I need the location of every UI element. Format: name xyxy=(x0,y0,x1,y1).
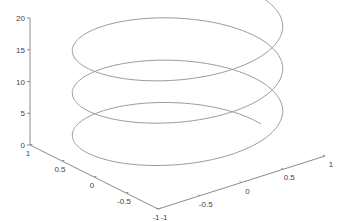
z-tick-label: 10 xyxy=(16,78,25,87)
y-tick xyxy=(62,160,65,161)
axes xyxy=(30,18,325,209)
z-tick-label: 15 xyxy=(16,46,25,55)
tick-labels: 0510152010.50-0.5-1-1-0.500.51 xyxy=(16,14,334,222)
helix-3d-plot: 0510152010.50-0.5-1-1-0.500.51 xyxy=(0,0,348,222)
y-tick-label: 0.5 xyxy=(54,165,66,174)
y-tick-label: 0 xyxy=(90,181,95,190)
x-tick xyxy=(281,168,283,169)
y-tick-label: -1 xyxy=(152,213,160,222)
x-tick-label: 0.5 xyxy=(284,173,296,182)
x-tick-label: -0.5 xyxy=(199,200,213,209)
ticks xyxy=(27,18,325,209)
y-tick-label: -0.5 xyxy=(117,197,131,206)
z-tick-label: 20 xyxy=(16,14,25,23)
y-tick-label: 1 xyxy=(26,149,31,158)
x-tick xyxy=(240,182,242,183)
x-tick-label: 0 xyxy=(245,187,250,196)
z-tick-label: 5 xyxy=(21,109,26,118)
x-tick xyxy=(198,195,200,196)
x-tick xyxy=(323,155,325,156)
x-tick xyxy=(156,208,158,209)
x-tick-label: 1 xyxy=(329,160,334,169)
y-tick xyxy=(158,208,161,209)
helix-curve xyxy=(72,0,282,166)
y-tick xyxy=(94,176,97,177)
x-tick-label: -1 xyxy=(160,213,168,222)
y-tick xyxy=(126,192,129,193)
